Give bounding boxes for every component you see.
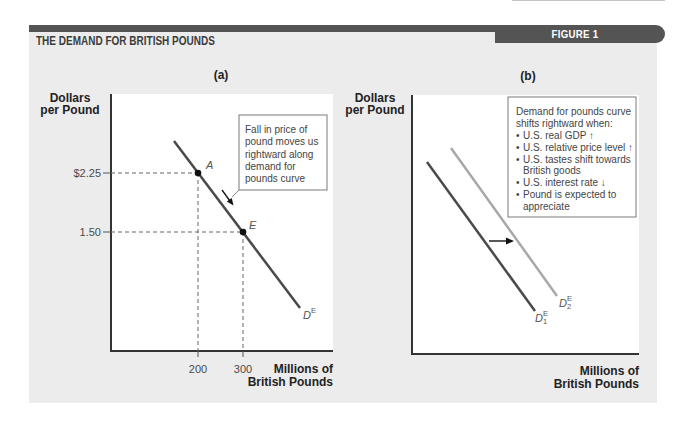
demand-curve-label: D E — [303, 310, 323, 330]
bullet-text: Pound is expected to — [523, 189, 616, 200]
bullet-icon: • — [516, 154, 523, 166]
x-tick-label: 200 — [183, 362, 213, 376]
panel-b-x-axis-title: Millions of British Pounds — [529, 365, 639, 390]
bullet-text: U.S. tastes shift towards — [523, 154, 631, 165]
y-axis-title-line: per Pound — [339, 104, 411, 116]
annotation-line: pound moves us — [245, 136, 318, 148]
annotation-line: shifts rightward when: — [516, 118, 633, 130]
demand-curve-d2-label: D E 2 — [559, 298, 579, 318]
x-axis-title-line: Millions of — [529, 365, 639, 377]
y-tick-label: $2.25 — [56, 166, 101, 180]
bullet-icon: • — [516, 177, 523, 189]
panel-a-annotation-text: Fall in price of pound moves us rightwar… — [245, 124, 318, 185]
x-axis-title-line: Millions of — [223, 363, 333, 375]
curve-label-main: D — [559, 298, 567, 309]
panel-a-x-axis-title: Millions of British Pounds — [223, 363, 333, 388]
point-e-dot — [240, 229, 247, 236]
panel-b-annotation-text: Demand for pounds curve shifts rightward… — [516, 106, 633, 213]
point-a-label: A — [206, 159, 213, 171]
panel-a-y-axis-title: Dollars per Pound — [34, 92, 106, 116]
x-axis-title-line: British Pounds — [223, 376, 333, 388]
annotation-line: rightward along — [245, 149, 318, 161]
bullet-continuation: British goods — [516, 165, 633, 177]
annotation-bullet: •U.S. relative price level ↑ — [516, 142, 633, 154]
curve-label-superscript: E — [311, 307, 316, 315]
annotation-bullet: •U.S. real GDP ↑ — [516, 130, 633, 142]
annotation-bullet: •U.S. tastes shift towards — [516, 154, 633, 166]
y-tick-label: 1.50 — [56, 225, 101, 239]
curve-label-main: D — [303, 310, 311, 321]
bullet-icon: • — [516, 130, 523, 142]
annotation-line: Demand for pounds curve — [516, 106, 633, 118]
curve-label-main: D — [535, 313, 543, 324]
demand-curve-d1-label: D E 1 — [535, 313, 555, 333]
y-axis-title-line: per Pound — [34, 104, 106, 116]
bullet-icon: • — [516, 142, 523, 154]
annotation-line: Fall in price of — [245, 124, 318, 136]
bullet-icon: • — [516, 189, 523, 201]
curve-label-subscript: 2 — [567, 303, 571, 311]
annotation-line: pounds curve — [245, 173, 318, 185]
bullet-text: U.S. relative price level ↑ — [523, 142, 633, 153]
panel-b-y-axis-title: Dollars per Pound — [339, 92, 411, 116]
bullet-text: U.S. real GDP ↑ — [523, 130, 594, 141]
panel-b-label: (b) — [513, 69, 543, 83]
curve-label-subscript: 1 — [543, 318, 547, 326]
annotation-line: demand for — [245, 161, 318, 173]
bullet-continuation: appreciate — [516, 201, 633, 213]
bullet-text: U.S. interest rate ↓ — [523, 177, 606, 188]
x-axis-title-line: British Pounds — [529, 378, 639, 390]
annotation-bullet: •U.S. interest rate ↓ — [516, 177, 633, 189]
point-e-label: E — [249, 219, 256, 231]
point-a-dot — [195, 170, 202, 177]
annotation-bullet: •Pound is expected to — [516, 189, 633, 201]
panel-a-label: (a) — [206, 68, 236, 82]
